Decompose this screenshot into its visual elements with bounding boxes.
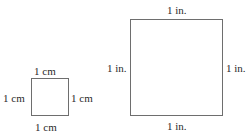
large-square	[130, 19, 223, 116]
large-square-bottom-label: 1 in.	[167, 120, 187, 132]
small-square-left-label: 1 cm	[3, 92, 25, 104]
large-square-left-label: 1 in.	[107, 62, 127, 74]
small-square-top-label: 1 cm	[34, 65, 56, 77]
small-square-bottom-label: 1 cm	[35, 121, 57, 133]
large-square-right-label: 1 in.	[226, 62, 246, 74]
small-square-right-label: 1 cm	[71, 92, 93, 104]
large-square-top-label: 1 in.	[167, 4, 187, 16]
small-square	[31, 78, 69, 116]
